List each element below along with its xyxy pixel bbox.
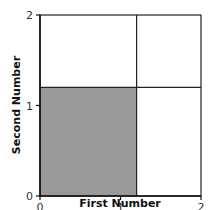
x-axis-title: First Number: [79, 197, 161, 210]
x-tick-label: 2: [198, 201, 205, 210]
region-bottom-right: [137, 87, 201, 196]
region-shaded: [40, 87, 137, 196]
region-top-right: [137, 15, 201, 87]
y-tick-label: 1: [26, 100, 33, 113]
chart: 012012 First Number Second Number: [0, 0, 210, 210]
y-tick-label: 2: [26, 9, 33, 22]
plot-area: [40, 15, 201, 196]
region-top-left: [40, 15, 137, 87]
y-axis-title: Second Number: [10, 55, 23, 154]
x-tick-label: 0: [37, 201, 44, 210]
y-tick-label: 0: [26, 190, 33, 203]
